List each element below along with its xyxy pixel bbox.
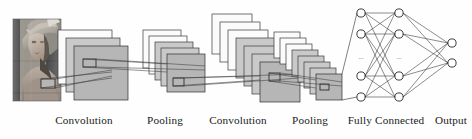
fc2-neuron (395, 9, 403, 17)
fc-column-1-neurons: ... (357, 9, 365, 101)
lena-photo (13, 17, 61, 101)
fc-column-2-neurons: ... (395, 9, 403, 101)
pool1-patch (173, 78, 184, 86)
cnn-architecture-diagram: ... ... Convolution Pooling Convolution … (0, 0, 472, 139)
fc-synapses-layer1 (365, 13, 395, 97)
label-fully-connected: Fully Connected (348, 114, 425, 126)
fc2-neuron (395, 72, 403, 80)
fc1-neuron (357, 93, 365, 101)
fc1-neuron (357, 72, 365, 80)
fc1-neuron (357, 9, 365, 17)
fc1-ellipsis: ... (358, 53, 364, 61)
fc2-neuron (395, 93, 403, 101)
fc2-ellipsis: ... (396, 53, 402, 61)
label-convolution-2: Convolution (209, 114, 267, 126)
output-layer-neurons (448, 39, 456, 67)
cnn-diagram-canvas: ... ... Convolution Pooling Convolution … (0, 0, 472, 139)
stage-conv1-feature-maps (58, 30, 128, 100)
conv1-patch (83, 59, 96, 67)
output-neuron (448, 59, 456, 67)
label-convolution-1: Convolution (55, 114, 113, 126)
fc-synapses-output (403, 13, 448, 97)
label-output: Output (435, 114, 468, 126)
stage-pool1-feature-maps (143, 30, 205, 92)
label-pooling-1: Pooling (147, 114, 183, 126)
input-receptive-patch (41, 79, 55, 88)
output-neuron (448, 39, 456, 47)
input-image-group (13, 17, 61, 101)
fc2-neuron (395, 30, 403, 38)
links-pool2-to-fc (342, 13, 357, 100)
label-pooling-2: Pooling (292, 114, 328, 126)
fc1-neuron (357, 30, 365, 38)
